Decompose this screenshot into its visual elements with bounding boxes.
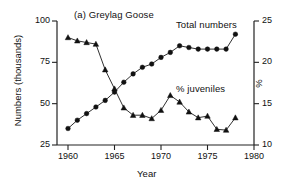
data-point <box>187 45 192 50</box>
data-point <box>205 113 211 118</box>
data-point <box>140 65 145 70</box>
data-point <box>233 32 238 37</box>
data-point <box>205 47 210 52</box>
data-point <box>112 86 118 91</box>
data-point <box>122 80 127 85</box>
data-point <box>224 47 229 52</box>
data-point <box>168 50 173 55</box>
data-point <box>66 126 71 131</box>
data-point <box>102 67 108 72</box>
data-point <box>94 105 99 110</box>
data-point <box>177 99 183 104</box>
data-point <box>233 115 239 120</box>
data-point <box>159 55 164 60</box>
data-point <box>158 107 164 112</box>
chart-figure: (a) Greylag Goose Total numbers % juveni… <box>0 0 301 187</box>
data-point <box>196 47 201 52</box>
data-point <box>215 47 220 52</box>
series-line-total-numbers <box>68 34 235 128</box>
data-series-layer <box>65 32 238 132</box>
data-point <box>168 93 174 98</box>
plot-area <box>0 0 301 187</box>
data-point <box>149 62 154 67</box>
data-point <box>84 111 89 116</box>
data-point <box>121 105 127 110</box>
data-point <box>75 118 80 123</box>
data-point <box>131 72 136 77</box>
data-point <box>177 44 182 49</box>
data-point <box>65 35 71 40</box>
data-point <box>103 98 108 103</box>
